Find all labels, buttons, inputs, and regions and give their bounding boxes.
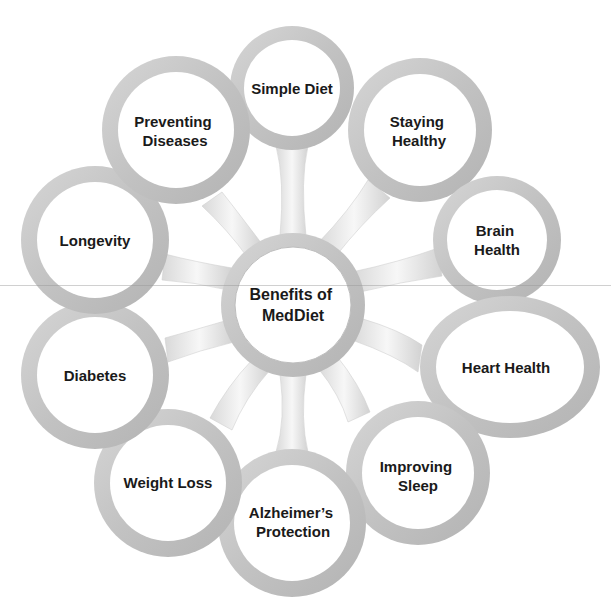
spoke-weight-loss (210, 360, 270, 430)
benefits-hub-diagram: Benefits of MedDiet Simple Diet Staying … (0, 0, 611, 603)
label-longevity: Longevity (60, 232, 131, 249)
label-weight-loss: Weight Loss (124, 474, 213, 491)
spoke-diabetes (165, 320, 234, 362)
scan-artifact-line (0, 285, 611, 286)
spoke-heart-health (352, 318, 422, 372)
spoke-alzheimers (276, 374, 308, 452)
node-staying-healthy (348, 58, 492, 202)
center-hub (221, 233, 365, 377)
node-preventing-diseases (102, 56, 250, 204)
spoke-simple-diet (276, 146, 308, 236)
label-simple-diet: Simple Diet (251, 80, 333, 97)
label-heart-health: Heart Health (462, 359, 550, 376)
label-diabetes: Diabetes (64, 367, 127, 384)
